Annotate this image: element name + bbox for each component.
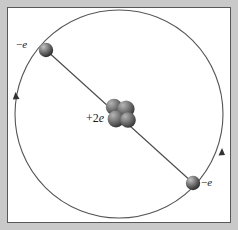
electron-lower-right-label: −e [201,177,212,188]
nucleus-charge-label-prefix: +2 [86,111,99,125]
orbit-arrow-right-icon [219,148,226,156]
electron-upper-left [39,43,53,57]
nucleus [106,99,136,128]
figure-root: −e −e +2e [0,0,238,230]
electron-upper-left-label-symbol: e [22,38,27,50]
figure-panel [8,8,230,222]
orbit-arrow-left-icon [13,92,20,100]
helium-atom-diagram [8,8,230,222]
electron-lower-right-label-symbol: e [207,176,212,188]
nucleus-charge-label: +2e [86,112,104,124]
electron-upper-left-label: −e [16,39,27,50]
electron-lower-right [186,176,200,190]
nucleon [120,112,136,128]
nucleus-charge-label-symbol: e [99,111,104,125]
